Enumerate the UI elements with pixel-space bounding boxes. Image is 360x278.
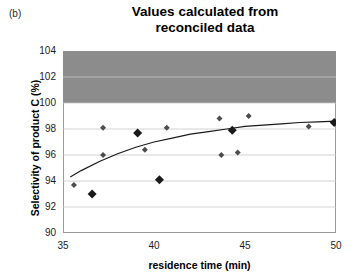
y-tick-label-92: 92 — [22, 201, 56, 212]
data-point-marker — [100, 125, 106, 131]
y-tick-label-104: 104 — [22, 45, 56, 56]
data-point-marker — [88, 190, 97, 199]
figure-panel: (b) Values calculated from reconciled da… — [0, 0, 360, 278]
data-point-marker — [235, 149, 241, 155]
y-tick-label-102: 102 — [22, 71, 56, 82]
plot-canvas — [63, 51, 336, 233]
y-tick-label-96: 96 — [22, 149, 56, 160]
x-tick-label-40: 40 — [139, 240, 169, 251]
data-point-marker — [164, 125, 170, 131]
data-points-group — [71, 113, 336, 199]
data-point-marker — [246, 113, 252, 119]
chart-title-line-1: Values calculated from — [60, 4, 350, 20]
x-tick-label-50: 50 — [321, 240, 351, 251]
y-tick-label-94: 94 — [22, 175, 56, 186]
data-point-marker — [306, 123, 312, 129]
y-tick-label-100: 100 — [22, 97, 56, 108]
data-point-marker — [155, 175, 164, 184]
trend-line — [70, 121, 336, 177]
data-point-marker — [217, 116, 223, 122]
data-point-marker — [228, 126, 237, 135]
data-point-marker — [330, 118, 336, 127]
y-tick-label-90: 90 — [22, 227, 56, 238]
data-point-marker — [218, 152, 224, 158]
trend-line-group — [70, 121, 336, 177]
data-point-marker — [133, 128, 142, 137]
y-tick-label-98: 98 — [22, 123, 56, 134]
data-point-marker — [142, 147, 148, 153]
data-point-marker — [100, 152, 106, 158]
x-tick-label-35: 35 — [48, 240, 78, 251]
chart-title: Values calculated from reconciled data — [60, 4, 350, 36]
x-tick-label-45: 45 — [230, 240, 260, 251]
panel-label: (b) — [9, 8, 21, 19]
data-point-marker — [71, 182, 77, 188]
chart-title-line-2: reconciled data — [60, 20, 350, 36]
x-axis-label: residence time (min) — [63, 259, 336, 271]
